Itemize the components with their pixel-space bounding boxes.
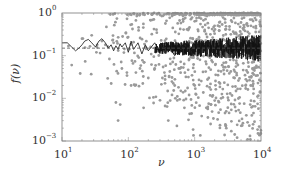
scatter-point (244, 78, 247, 81)
scatter-point (198, 104, 201, 107)
scatter-point (136, 55, 139, 58)
scatter-point (192, 67, 195, 70)
scatter-point (203, 30, 206, 33)
scatter-point (112, 38, 115, 41)
scatter-point (160, 39, 163, 42)
scatter-point (90, 34, 93, 37)
scatter-point (169, 57, 172, 60)
scatter-point (250, 114, 253, 117)
scatter-point (247, 61, 250, 64)
scatter-point (168, 16, 171, 19)
scatter-point (192, 83, 195, 86)
scatter-point (214, 63, 217, 66)
scatter-point (248, 124, 251, 127)
scatter-point (234, 85, 237, 88)
scatter-point (137, 26, 140, 29)
scatter-point (198, 16, 201, 19)
scatter-point (166, 101, 169, 104)
scatter-point (106, 77, 109, 80)
scatter-point (214, 73, 217, 76)
scatter-point (155, 95, 158, 98)
scatter-point (218, 29, 221, 32)
scatter-point (233, 70, 236, 73)
scatter-point (250, 75, 253, 78)
scatter-point (233, 133, 236, 136)
scatter-point (155, 28, 158, 31)
scatter-point (222, 34, 225, 37)
scatter-point (89, 45, 92, 48)
scatter-point (178, 98, 181, 101)
scatter-point (235, 110, 238, 113)
scatter-point (241, 124, 244, 127)
scatter-point (147, 77, 150, 80)
x-tick-label: 101 (54, 149, 72, 160)
scatter-point (241, 84, 244, 87)
scatter-point (142, 23, 145, 26)
scatter-point (112, 41, 115, 44)
scatter-point (202, 55, 205, 58)
scatter-point (252, 105, 255, 108)
scatter-point (173, 68, 176, 71)
scatter-point (224, 123, 227, 126)
scatter-point (241, 118, 244, 121)
scatter-point (176, 125, 179, 128)
scatter-point (184, 17, 187, 20)
scatter-point (214, 84, 217, 87)
scatter-point (225, 25, 228, 28)
scatter-point (257, 94, 260, 97)
scatter-point (232, 14, 235, 17)
scatter-point (238, 77, 241, 80)
x-tick-label: 104 (253, 149, 271, 160)
scatter-point (169, 99, 172, 102)
scatter-point (206, 85, 209, 88)
scatter-point (163, 71, 166, 74)
scatter-point (209, 68, 212, 71)
chart-canvas (0, 0, 281, 178)
scatter-point (141, 59, 144, 62)
scatter-point (239, 111, 242, 114)
scatter-point (152, 55, 155, 58)
scatter-point (79, 72, 82, 75)
scatter-point (234, 99, 237, 102)
scatter-point (255, 74, 258, 77)
scatter-point (165, 37, 168, 40)
scatter-point (214, 88, 217, 91)
scatter-point (258, 79, 261, 82)
scatter-point (161, 77, 164, 80)
scatter-point (227, 65, 230, 68)
scatter-point (209, 123, 212, 126)
scatter-point (164, 78, 167, 81)
scatter-point (200, 115, 203, 118)
scatter-point (184, 71, 187, 74)
scatter-point (134, 84, 137, 87)
scatter-point (204, 60, 207, 63)
scatter-point (148, 97, 151, 100)
scatter-point (198, 83, 201, 86)
scatter-point (150, 33, 153, 36)
scatter-point (249, 138, 252, 141)
scatter-point (217, 111, 220, 114)
scatter-point (227, 99, 230, 102)
scatter-point (182, 99, 185, 102)
scatter-point (115, 70, 118, 73)
scatter-point (228, 112, 231, 115)
scatter-point (221, 23, 224, 26)
scatter-point (242, 27, 245, 30)
scatter-point (168, 70, 171, 73)
scatter-point (224, 28, 227, 31)
scatter-point (110, 82, 113, 85)
scatter-point (177, 32, 180, 35)
scatter-point (171, 61, 174, 64)
scatter-point (245, 114, 248, 117)
scatter-point (116, 17, 119, 20)
scatter-point (218, 101, 221, 104)
scatter-point (116, 42, 119, 45)
scatter-point (239, 30, 242, 33)
scatter-point (253, 100, 256, 103)
scatter-point (199, 23, 202, 26)
scatter-point (126, 17, 129, 20)
scatter-point (126, 36, 129, 39)
scatter-point (190, 98, 193, 101)
scatter-point (254, 17, 257, 20)
scatter-point (133, 52, 136, 55)
